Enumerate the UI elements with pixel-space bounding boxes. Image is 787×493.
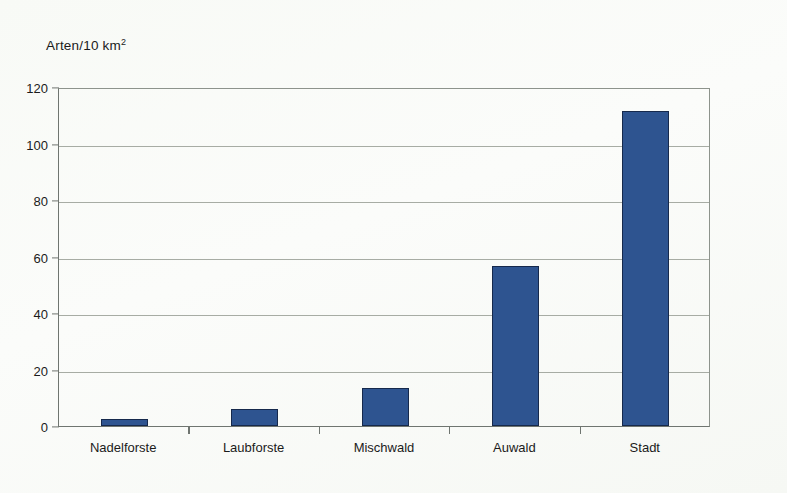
gridline <box>59 146 709 147</box>
bar-chart-figure: Arten/10 km2 020406080100120 Nadelforste… <box>0 0 787 493</box>
bar <box>492 266 539 426</box>
x-axis-category-label: Auwald <box>493 440 536 455</box>
x-axis-category-label: Mischwald <box>354 440 415 455</box>
bar <box>622 111 669 426</box>
y-axis-tick-label: 20 <box>34 363 48 378</box>
y-axis-title-text: Arten/10 km <box>46 38 121 53</box>
y-axis-title: Arten/10 km2 <box>46 38 126 53</box>
gridline <box>59 372 709 373</box>
x-axis-tick-mark <box>188 427 189 434</box>
gridline <box>59 259 709 260</box>
bar <box>101 419 148 426</box>
gridline <box>59 315 709 316</box>
x-axis-tick-mark <box>580 427 581 434</box>
x-axis-category-label: Stadt <box>630 440 660 455</box>
y-axis-tick-label: 40 <box>34 307 48 322</box>
y-axis-tick-labels: 020406080100120 <box>0 88 48 427</box>
plot-area <box>58 88 710 427</box>
y-axis-tick-label: 0 <box>41 420 48 435</box>
y-axis-tick-label: 120 <box>26 81 48 96</box>
bar <box>362 388 409 426</box>
y-axis-tick-label: 60 <box>34 250 48 265</box>
y-axis-title-exponent: 2 <box>121 37 126 47</box>
y-axis-tick-label: 100 <box>26 137 48 152</box>
bar <box>231 409 278 426</box>
x-axis-category-label: Nadelforste <box>90 440 156 455</box>
x-axis-category-label: Laubforste <box>223 440 284 455</box>
x-axis-tick-mark <box>449 427 450 434</box>
gridline <box>59 202 709 203</box>
y-axis-tick-label: 80 <box>34 194 48 209</box>
x-axis-tick-mark <box>319 427 320 434</box>
